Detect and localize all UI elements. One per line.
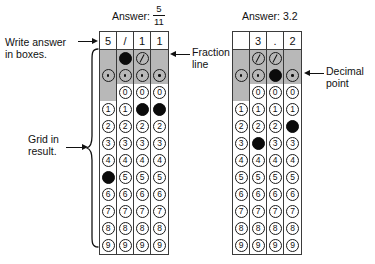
digit-cell-2-col3[interactable]: 2 [267,118,283,135]
bubble-digit-7[interactable]: 7 [102,205,115,218]
digit-cell-6-col3[interactable]: 6 [134,186,150,203]
bubble-digit-5[interactable]: 5 [286,171,299,184]
digit-cell-8-col4[interactable]: 8 [284,220,301,237]
bubble-digit-4[interactable]: 4 [119,154,132,167]
digit-cell-5-col1[interactable] [100,169,116,186]
digit-cell-8-col3[interactable]: 8 [267,220,283,237]
bubble-digit-7[interactable]: 7 [286,205,299,218]
bubble-decimal-point[interactable] [119,69,132,82]
digit-cell-0-col4[interactable]: 0 [284,84,301,101]
bubble-digit-0[interactable]: 0 [286,86,299,99]
bubble-decimal-point[interactable] [269,69,282,82]
bubble-digit-5[interactable]: 5 [119,171,132,184]
digit-cell-7-col1[interactable]: 7 [233,203,249,220]
digit-cell-3-col1[interactable]: 3 [100,135,116,152]
digit-cell-8-col3[interactable]: 8 [134,220,150,237]
bubble-digit-7[interactable]: 7 [153,205,166,218]
bubble-digit-8[interactable]: 8 [119,222,132,235]
bubble-digit-6[interactable]: 6 [119,188,132,201]
bubble-decimal-point[interactable] [286,69,299,82]
bubble-digit-4[interactable]: 4 [235,154,248,167]
digit-cell-9-col2[interactable]: 9 [117,237,133,254]
write-in-box-3[interactable]: . [267,32,283,50]
digit-cell-4-col1[interactable]: 4 [233,152,249,169]
bubble-digit-2[interactable]: 2 [102,120,115,133]
bubble-digit-2[interactable]: 2 [252,120,265,133]
digit-cell-1-col3[interactable]: 1 [267,101,283,118]
digit-cell-6-col1[interactable]: 6 [233,186,249,203]
answer-grid-fraction[interactable]: 512346789/012345678910234567891023456789 [99,31,169,255]
bubble-digit-9[interactable]: 9 [269,239,282,252]
bubble-digit-8[interactable]: 8 [269,222,282,235]
bubble-digit-0[interactable]: 0 [252,86,265,99]
digit-cell-6-col2[interactable]: 6 [117,186,133,203]
bubble-fraction-slash[interactable] [119,52,132,65]
bubble-digit-7[interactable]: 7 [235,205,248,218]
bubble-digit-8[interactable]: 8 [153,222,166,235]
digit-cell-4-col3[interactable]: 4 [134,152,150,169]
bubble-digit-9[interactable]: 9 [102,239,115,252]
digit-cell-0-col3[interactable]: 0 [134,84,150,101]
bubble-digit-5[interactable]: 5 [269,171,282,184]
bubble-digit-3[interactable]: 3 [136,137,149,150]
digit-cell-7-col4[interactable]: 7 [151,203,168,220]
digit-cell-4-col2[interactable]: 4 [117,152,133,169]
bubble-digit-0[interactable]: 0 [269,86,282,99]
decimal-point-row-cell-2[interactable] [250,67,266,84]
bubble-decimal-point[interactable] [235,69,248,82]
bubble-digit-9[interactable]: 9 [119,239,132,252]
digit-cell-3-col4[interactable]: 3 [284,135,301,152]
digit-cell-1-col4[interactable] [151,101,168,118]
bubble-decimal-point[interactable] [153,69,166,82]
bubble-digit-8[interactable]: 8 [286,222,299,235]
bubble-digit-6[interactable]: 6 [286,188,299,201]
digit-cell-3-col4[interactable]: 3 [151,135,168,152]
bubble-digit-2[interactable]: 2 [119,120,132,133]
bubble-digit-3[interactable]: 3 [153,137,166,150]
digit-cell-6-col2[interactable]: 6 [250,186,266,203]
bubble-digit-4[interactable]: 4 [269,154,282,167]
digit-cell-5-col2[interactable]: 5 [117,169,133,186]
bubble-digit-2[interactable] [286,120,299,133]
bubble-digit-3[interactable]: 3 [286,137,299,150]
digit-cell-4-col4[interactable]: 4 [151,152,168,169]
bubble-digit-8[interactable]: 8 [102,222,115,235]
bubble-digit-7[interactable]: 7 [136,205,149,218]
fraction-line-row-cell-2[interactable] [117,50,133,67]
digit-cell-9-col3[interactable]: 9 [267,237,283,254]
digit-cell-0-col3[interactable]: 0 [267,84,283,101]
digit-cell-4-col4[interactable]: 4 [284,152,301,169]
write-in-box-3[interactable]: 1 [134,32,150,50]
bubble-digit-9[interactable]: 9 [136,239,149,252]
decimal-point-row-cell-3[interactable] [267,67,283,84]
bubble-digit-1[interactable]: 1 [286,103,299,116]
digit-cell-1-col1[interactable]: 1 [100,101,116,118]
bubble-digit-4[interactable]: 4 [252,154,265,167]
digit-cell-5-col4[interactable]: 5 [151,169,168,186]
bubble-digit-1[interactable] [136,103,149,116]
digit-cell-2-col4[interactable] [284,118,301,135]
digit-cell-6-col4[interactable]: 6 [284,186,301,203]
digit-cell-5-col4[interactable]: 5 [284,169,301,186]
digit-cell-3-col1[interactable]: 3 [233,135,249,152]
bubble-digit-0[interactable]: 0 [119,86,132,99]
bubble-digit-8[interactable]: 8 [235,222,248,235]
bubble-digit-1[interactable]: 1 [252,103,265,116]
digit-cell-5-col3[interactable]: 5 [134,169,150,186]
digit-cell-2-col2[interactable]: 2 [117,118,133,135]
bubble-digit-6[interactable]: 6 [102,188,115,201]
digit-cell-0-col4[interactable]: 0 [151,84,168,101]
digit-cell-8-col4[interactable]: 8 [151,220,168,237]
digit-cell-6-col1[interactable]: 6 [100,186,116,203]
digit-cell-4-col1[interactable]: 4 [100,152,116,169]
bubble-fraction-slash[interactable] [136,52,149,65]
bubble-digit-2[interactable]: 2 [136,120,149,133]
bubble-digit-4[interactable]: 4 [286,154,299,167]
bubble-digit-3[interactable]: 3 [102,137,115,150]
bubble-digit-9[interactable]: 9 [286,239,299,252]
bubble-digit-6[interactable]: 6 [153,188,166,201]
bubble-digit-0[interactable]: 0 [153,86,166,99]
bubble-digit-7[interactable]: 7 [119,205,132,218]
bubble-digit-6[interactable]: 6 [235,188,248,201]
digit-cell-5-col1[interactable]: 5 [233,169,249,186]
